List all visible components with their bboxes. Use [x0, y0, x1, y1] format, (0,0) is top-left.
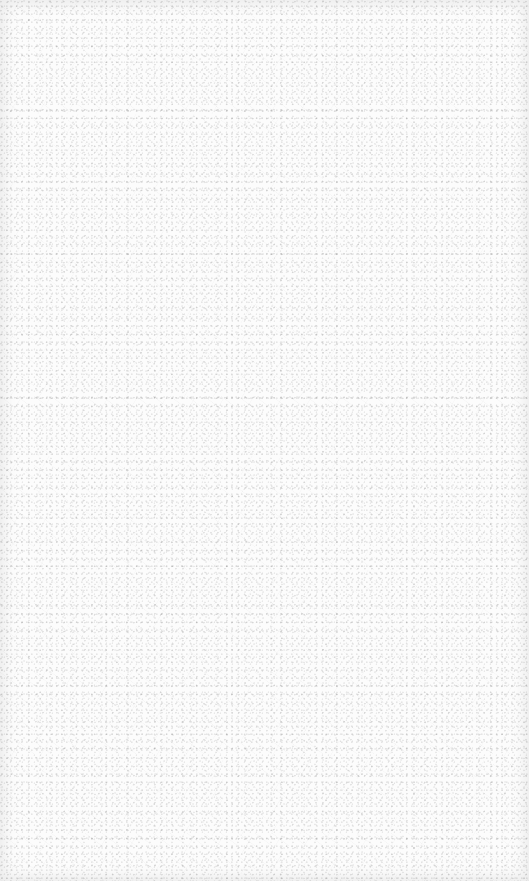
textured-white-surface — [0, 0, 529, 881]
speckle-texture — [0, 0, 529, 881]
